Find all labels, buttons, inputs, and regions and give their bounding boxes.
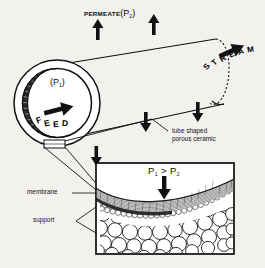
detail-cross-section-panel: [92, 163, 239, 264]
inequality-p1: P: [148, 165, 155, 176]
stream-arrow: [217, 39, 247, 62]
diagram-vector-art: [0, 0, 265, 268]
inequality-operator: >: [161, 165, 167, 176]
feed-paren-close: ): [62, 77, 65, 87]
tube-description-line2: porous ceramic: [172, 135, 216, 143]
inequality-p1-sub: 1: [155, 171, 158, 177]
permeate-up-arrow-2: [148, 14, 159, 35]
permeate-p-subscript: 2: [129, 13, 132, 19]
layer-label-leaders: [72, 193, 96, 233]
tube-description-label: tube shaped porous ceramic: [172, 127, 216, 142]
feed-pressure-label: (P1): [50, 78, 65, 87]
inequality-p2-sub: 2: [177, 171, 180, 177]
tube-far-end-ellipse: [209, 39, 229, 104]
support-layer-label: support: [33, 217, 54, 223]
inequality-p2: P: [170, 165, 177, 176]
tube-description-line1: tube shaped: [172, 127, 216, 135]
permeate-label: PERMEATE(P2): [84, 9, 135, 18]
permeate-text: PERMEATE: [84, 10, 120, 17]
permeate-up-arrow-1: [92, 19, 103, 40]
membrane-layer-label: membrane: [27, 189, 58, 195]
tube-label-leader: [152, 119, 168, 131]
figure-canvas: PERMEATE(P2) (P1) F E E D S T R E A M tu…: [0, 0, 265, 268]
permeate-paren-close: ): [132, 8, 135, 18]
tube-far-end-fill: [209, 39, 221, 102]
outflow-down-arrow-3: [192, 102, 203, 122]
pressure-inequality-label: P1 > P2: [148, 166, 180, 176]
feed-p-subscript: 1: [59, 82, 62, 88]
